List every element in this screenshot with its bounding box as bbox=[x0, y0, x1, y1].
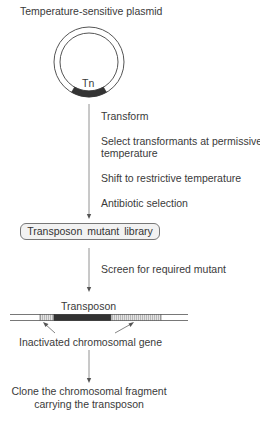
step-select-line2: temperature bbox=[101, 147, 158, 159]
transposon-label: Transposon bbox=[61, 300, 116, 312]
arrow-down-icon bbox=[87, 350, 91, 383]
gene-right-segment bbox=[111, 315, 161, 321]
arrow-down-icon bbox=[87, 248, 91, 292]
plasmid-insert-label: Tn bbox=[82, 77, 94, 89]
step-screen: Screen for required mutant bbox=[101, 263, 226, 275]
library-box: Transposon mutant library bbox=[20, 223, 160, 240]
gene-left-segment bbox=[40, 315, 54, 321]
step-antibiotic: Antibiotic selection bbox=[101, 197, 188, 209]
step-shift: Shift to restrictive temperature bbox=[101, 172, 241, 184]
diagram-title: Temperature-sensitive plasmid bbox=[20, 5, 162, 17]
pointer-arrow-icon bbox=[43, 322, 55, 333]
pointer-arrow-icon bbox=[115, 322, 134, 333]
chromosome-icon bbox=[10, 315, 188, 321]
arrow-down-icon bbox=[87, 104, 91, 219]
diagram-graphics bbox=[0, 0, 260, 424]
final-step-line2: carrying the transposon bbox=[0, 398, 178, 410]
step-transform: Transform bbox=[101, 110, 148, 122]
gene-label: Inactivated chromosomal gene bbox=[19, 336, 162, 348]
final-step-line1: Clone the chromosomal fragment bbox=[0, 385, 178, 397]
transposon-insert bbox=[54, 315, 111, 321]
step-select-line1: Select transformants at permissive bbox=[101, 135, 260, 147]
